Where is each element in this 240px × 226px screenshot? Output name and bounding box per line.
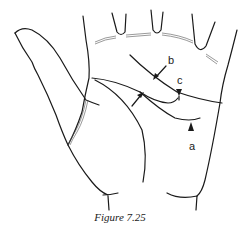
finger-2: [151, 10, 163, 33]
arrow-b-icon: [153, 66, 166, 80]
palm-drawing: [0, 0, 240, 226]
wrist-right: [167, 193, 197, 210]
figure-caption: Figure 7.25: [0, 211, 240, 223]
palm-left-edge: [68, 16, 89, 145]
arrow-a-icon: [188, 122, 194, 131]
arrow-c-icon: [176, 89, 182, 100]
label-a: a: [189, 141, 195, 152]
finger-3: [192, 14, 215, 50]
arrow-life-icon: [132, 92, 144, 106]
finger-crease: [95, 36, 116, 44]
palm-right-edge: [197, 30, 237, 196]
label-c: c: [177, 75, 183, 86]
head-line: [92, 78, 178, 103]
wrist-left: [103, 193, 118, 210]
label-b: b: [168, 55, 174, 66]
palm-figure: b c a Figure 7.25: [0, 0, 240, 226]
finger-1: [112, 13, 126, 35]
